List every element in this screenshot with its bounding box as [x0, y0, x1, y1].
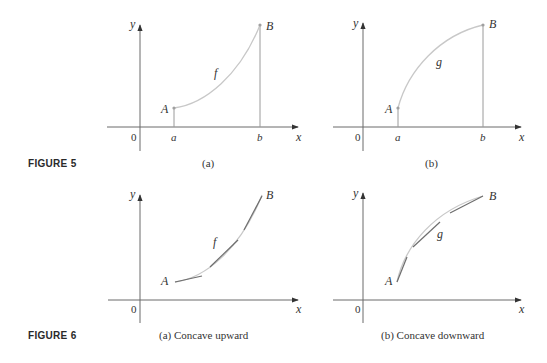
- point-b-label: B: [489, 17, 497, 31]
- origin-label: 0: [131, 303, 137, 315]
- point-b-label: B: [266, 188, 274, 202]
- point-a: [172, 106, 175, 109]
- tick-b-label: b: [480, 131, 486, 143]
- x-axis-label: x: [518, 130, 525, 144]
- origin-label: 0: [131, 131, 137, 143]
- y-axis-label: y: [129, 17, 136, 31]
- tick-a-label: a: [395, 131, 401, 143]
- point-a: [396, 106, 399, 109]
- x-axis-label: x: [518, 302, 525, 316]
- x-axis-label: x: [295, 302, 302, 316]
- function-label: g: [437, 227, 443, 241]
- y-axis-label: y: [352, 16, 359, 30]
- figure-5b-panel: y x 0 a b A B g (b): [333, 16, 525, 170]
- origin-label: 0: [355, 303, 361, 315]
- figure-6b-panel: y x 0 A B g (b) Concave downward: [333, 186, 525, 342]
- point-b-label: B: [489, 189, 497, 203]
- function-label: g: [436, 55, 442, 69]
- caption: (a) Concave upward: [159, 329, 249, 342]
- caption: (b): [425, 157, 438, 170]
- figure-canvas: y x 0 a b A B f (a) y x 0 a b A B g (b) …: [0, 0, 547, 363]
- figure-6a-panel: y x 0 A B f (a) Concave upward: [108, 187, 302, 342]
- tangent-segment: [397, 257, 407, 282]
- point-b: [481, 23, 484, 26]
- tangent-segment: [450, 196, 483, 213]
- point-b: [258, 23, 261, 26]
- point-a-label: A: [160, 102, 169, 116]
- point-b-label: B: [266, 19, 274, 33]
- point-a-label: A: [384, 102, 393, 116]
- origin-label: 0: [355, 131, 361, 143]
- figure-5a-panel: y x 0 a b A B f (a): [107, 17, 302, 170]
- curve-f: [175, 195, 262, 282]
- tick-a-label: a: [171, 131, 177, 143]
- point-a-label: A: [160, 274, 169, 288]
- y-axis-label: y: [129, 187, 136, 201]
- y-axis-label: y: [352, 186, 359, 200]
- caption: (b) Concave downward: [381, 329, 485, 342]
- tangent-segment: [244, 196, 262, 230]
- figure-6-label: FIGURE 6: [28, 330, 77, 341]
- tick-b-label: b: [257, 131, 263, 143]
- function-label: f: [213, 235, 218, 249]
- point-a-label: A: [384, 274, 393, 288]
- figure-5-label: FIGURE 5: [28, 158, 77, 169]
- function-label: f: [214, 66, 219, 80]
- x-axis-label: x: [295, 130, 302, 144]
- tangent-segment: [175, 276, 202, 282]
- caption: (a): [202, 157, 215, 170]
- tangent-segment: [413, 222, 440, 247]
